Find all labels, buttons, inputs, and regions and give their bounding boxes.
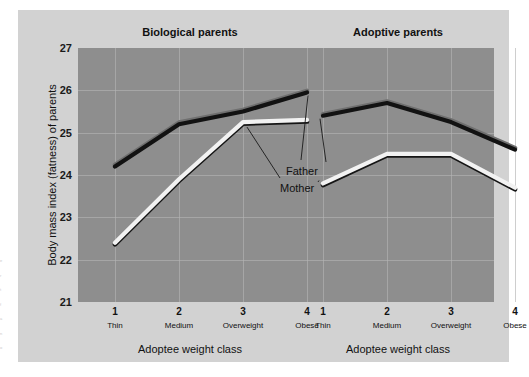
x-axis-tick-number: 3: [448, 306, 454, 317]
x-axis-tick-number: 2: [176, 306, 182, 317]
x-axis-tick-label: Overweight: [431, 321, 471, 330]
x-axis-title-biological: Adoptee weight class: [138, 343, 242, 355]
series-line-mother-adoptive: [323, 154, 515, 188]
x-axis-tick-label: Medium: [373, 321, 401, 330]
leader-line-mother-biological: [247, 127, 280, 178]
x-axis-tick-number: 4: [304, 306, 310, 317]
gridline-vertical: [515, 48, 516, 302]
x-axis-tick-number: 4: [512, 306, 518, 317]
series-line-mother-biological-shadow: [115, 122, 307, 245]
margin-text-fragment: t: [0, 287, 14, 292]
x-axis-tick-label: Medium: [165, 321, 193, 330]
x-axis-tick-number: 1: [320, 306, 326, 317]
margin-text-fragment: n: [0, 331, 14, 336]
margin-text-fragment: r: [0, 273, 14, 278]
x-axis-tick-number: 3: [240, 306, 246, 317]
series-line-mother-biological: [115, 120, 307, 243]
x-axis-tick-number: 2: [384, 306, 390, 317]
x-axis-tick-label: Obese: [503, 321, 527, 330]
series-lines-layer: [18, 10, 509, 362]
figure-panel: Biological parents Adoptive parents Body…: [18, 10, 509, 362]
margin-text-fragment: a: [0, 316, 14, 321]
series-line-father-biological: [115, 92, 307, 166]
leader-line-mother-adoptive: [318, 180, 319, 182]
x-axis-tick-number: 1: [112, 306, 118, 317]
page-margin-text: ertfano: [0, 258, 14, 350]
leader-line-father-adoptive: [320, 119, 326, 162]
annotation-mother: Mother: [280, 182, 314, 194]
x-axis-tick-label: Overweight: [223, 321, 263, 330]
leader-line-father-biological: [301, 95, 308, 160]
x-axis-tick-label: Thin: [107, 321, 123, 330]
x-axis-title-adoptive: Adoptee weight class: [346, 343, 450, 355]
margin-text-fragment: e: [0, 258, 14, 263]
annotation-father: Father: [286, 165, 318, 177]
chart-page: ertfano Biological parents Adoptive pare…: [0, 0, 529, 377]
x-axis-tick-label: Thin: [315, 321, 331, 330]
margin-text-fragment: o: [0, 345, 14, 350]
margin-text-fragment: f: [0, 302, 14, 307]
